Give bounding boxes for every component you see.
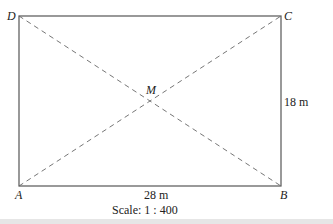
vertex-label-b: B — [280, 189, 287, 201]
vertex-label-a: A — [15, 189, 22, 201]
scale-label: Scale: 1 : 400 — [112, 204, 178, 216]
bottom-border — [0, 219, 333, 224]
vertex-label-c: C — [284, 10, 292, 22]
height-label: 18 m — [284, 96, 308, 108]
width-label: 28 m — [144, 189, 168, 201]
center-label-m: M — [146, 84, 156, 96]
vertex-label-d: D — [7, 10, 16, 22]
